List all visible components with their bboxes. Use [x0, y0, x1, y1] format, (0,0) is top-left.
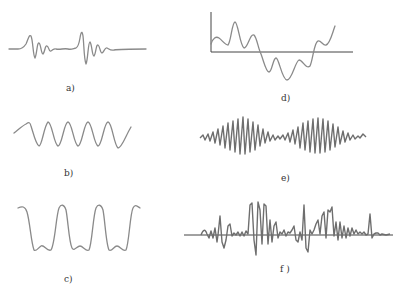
label-b: b)	[64, 168, 73, 178]
label-d: d)	[281, 93, 290, 103]
panel-e: e)	[200, 110, 407, 200]
label-c: c)	[64, 274, 73, 284]
panel-f: f )	[190, 190, 407, 296]
label-f: f )	[280, 264, 290, 274]
waveform-e	[200, 110, 407, 200]
waveform-b	[0, 100, 200, 195]
panel-c: c)	[0, 190, 200, 296]
panel-b: b)	[0, 100, 200, 195]
waveform-a	[0, 0, 200, 100]
label-e: e)	[281, 173, 290, 183]
panel-d: d)	[200, 0, 407, 110]
panel-a: a)	[0, 0, 200, 100]
chart-f	[190, 190, 407, 296]
chart-d	[200, 0, 407, 110]
waveform-c	[0, 190, 200, 296]
label-a: a)	[66, 83, 75, 93]
